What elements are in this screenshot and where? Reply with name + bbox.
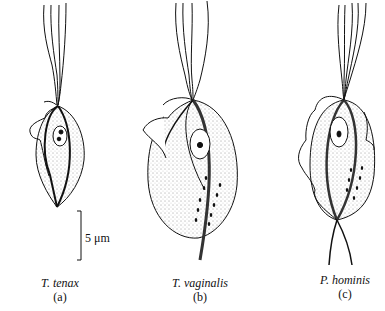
protozoa-illustration bbox=[0, 0, 385, 311]
organism-name: T. vaginalis bbox=[160, 276, 240, 290]
panel-letter: (a) bbox=[30, 290, 90, 304]
scale-bar bbox=[77, 211, 81, 260]
scale-bar-label: 5 μm bbox=[85, 231, 110, 246]
label-t-vaginalis: T. vaginalis (b) bbox=[160, 276, 240, 304]
panel-letter: (c) bbox=[310, 287, 380, 301]
organism-name: T. tenax bbox=[30, 276, 90, 290]
panel-letter: (b) bbox=[160, 290, 240, 304]
organism-p-hominis bbox=[299, 3, 375, 265]
organism-t-vaginalis bbox=[143, 1, 237, 260]
organism-name: P. hominis bbox=[310, 273, 380, 287]
label-t-tenax: T. tenax (a) bbox=[30, 276, 90, 304]
organism-t-tenax bbox=[30, 3, 84, 207]
label-p-hominis: P. hominis (c) bbox=[310, 273, 380, 301]
